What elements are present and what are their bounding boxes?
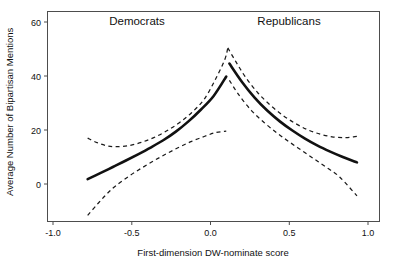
x-tick-label-neg1: -1.0 xyxy=(45,228,61,238)
y-tick-label-40: 40 xyxy=(31,72,41,82)
y-axis-title-group: Average Number of Bipartisan Mentions xyxy=(4,27,15,196)
y-tick-label-20: 20 xyxy=(31,126,41,136)
x-tick-label-0: 0.0 xyxy=(204,228,217,238)
annotation-democrats: Democrats xyxy=(109,15,165,27)
bipartisan-mentions-chart: Average Number of Bipartisan Mentions Fi… xyxy=(0,0,396,263)
x-tick-label-0-5: 0.5 xyxy=(283,228,296,238)
y-axis-title: Average Number of Bipartisan Mentions xyxy=(4,27,15,196)
y-tick-label-0: 0 xyxy=(36,180,41,190)
chart-background xyxy=(0,0,396,263)
x-axis-title-group: First-dimension DW-nominate score xyxy=(137,247,288,258)
x-axis-title: First-dimension DW-nominate score xyxy=(137,247,288,258)
annotation-republicans: Republicans xyxy=(257,15,321,27)
x-tick-label-1: 1.0 xyxy=(362,228,375,238)
x-tick-label-neg0-5: -0.5 xyxy=(124,228,140,238)
y-tick-label-60: 60 xyxy=(31,18,41,28)
